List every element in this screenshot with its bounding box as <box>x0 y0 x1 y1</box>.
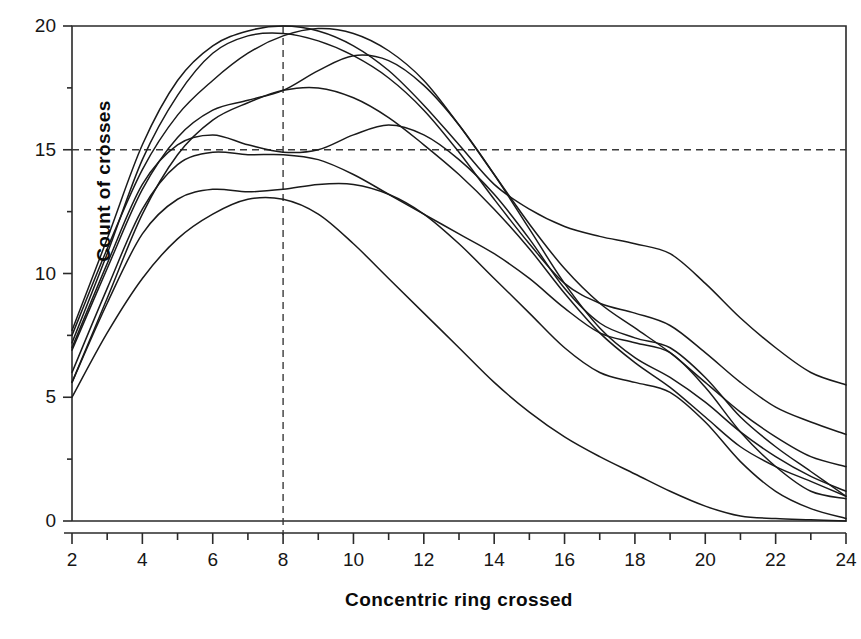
plot-frame <box>64 26 846 533</box>
x-tick-label-16: 16 <box>554 549 575 571</box>
x-tick-label-10: 10 <box>343 549 364 571</box>
y-tick-label-15: 15 <box>35 139 56 161</box>
y-axis-ticks <box>63 26 72 521</box>
x-tick-label-22: 22 <box>765 549 786 571</box>
series-line-curve-3 <box>72 28 846 466</box>
x-tick-label-8: 8 <box>278 549 289 571</box>
x-axis-ticks <box>72 533 846 544</box>
chart-figure: Count of crosses Concentric ring crossed… <box>0 0 861 639</box>
x-tick-label-4: 4 <box>137 549 148 571</box>
x-tick-label-18: 18 <box>624 549 645 571</box>
plot-box <box>72 26 846 521</box>
x-tick-label-24: 24 <box>835 549 856 571</box>
series-line-curve-7 <box>72 152 846 499</box>
series-line-curve-9 <box>72 197 846 521</box>
series-line-curve-6 <box>72 125 846 496</box>
x-tick-label-20: 20 <box>695 549 716 571</box>
y-tick-label-10: 10 <box>35 263 56 285</box>
x-tick-label-12: 12 <box>413 549 434 571</box>
series-line-curve-4 <box>72 55 846 491</box>
y-axis-label: Count of crosses <box>93 71 115 291</box>
data-series-lines <box>72 26 846 521</box>
y-tick-label-0: 0 <box>45 510 56 532</box>
line-chart-plot <box>0 0 861 639</box>
y-tick-label-20: 20 <box>35 15 56 37</box>
series-line-curve-5 <box>72 87 846 496</box>
y-tick-label-5: 5 <box>45 386 56 408</box>
x-tick-label-2: 2 <box>67 549 78 571</box>
x-tick-label-14: 14 <box>484 549 505 571</box>
x-tick-label-6: 6 <box>207 549 218 571</box>
x-axis-label: Concentric ring crossed <box>72 589 846 611</box>
